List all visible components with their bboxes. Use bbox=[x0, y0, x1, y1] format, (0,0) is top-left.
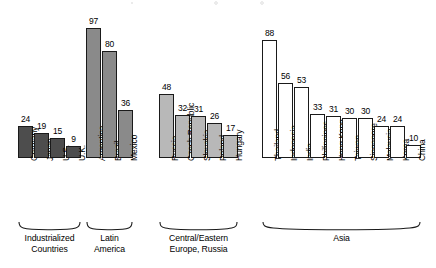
bar-value-label: 88 bbox=[257, 29, 282, 38]
bar-chart: 24Germany19Japan15U.S.9U.K.Industrialize… bbox=[0, 0, 436, 268]
group-label: Central/Eastern Europe, Russia bbox=[149, 233, 249, 254]
group-label: Asia bbox=[292, 233, 392, 244]
bar-value-label: 9 bbox=[61, 135, 86, 144]
group-brace bbox=[159, 222, 238, 231]
group-brace bbox=[18, 222, 81, 231]
group-label: Latin America bbox=[60, 233, 160, 254]
group-brace bbox=[86, 222, 133, 231]
bar-value-label: 53 bbox=[289, 76, 314, 85]
category-label: China bbox=[418, 139, 427, 161]
category-label: Mexico bbox=[130, 135, 139, 161]
bar-value-label: 80 bbox=[97, 40, 122, 49]
bar-value-label: 97 bbox=[81, 17, 106, 26]
bar-value-label: 48 bbox=[154, 83, 179, 92]
bar-value-label: 24 bbox=[385, 115, 410, 124]
category-label: Hungary bbox=[235, 130, 244, 161]
group-brace bbox=[262, 222, 421, 231]
plot-area: 24Germany19Japan15U.S.9U.K.Industrialize… bbox=[0, 0, 436, 268]
bar-value-label: 26 bbox=[202, 112, 227, 121]
bar-value-label: 36 bbox=[113, 99, 138, 108]
